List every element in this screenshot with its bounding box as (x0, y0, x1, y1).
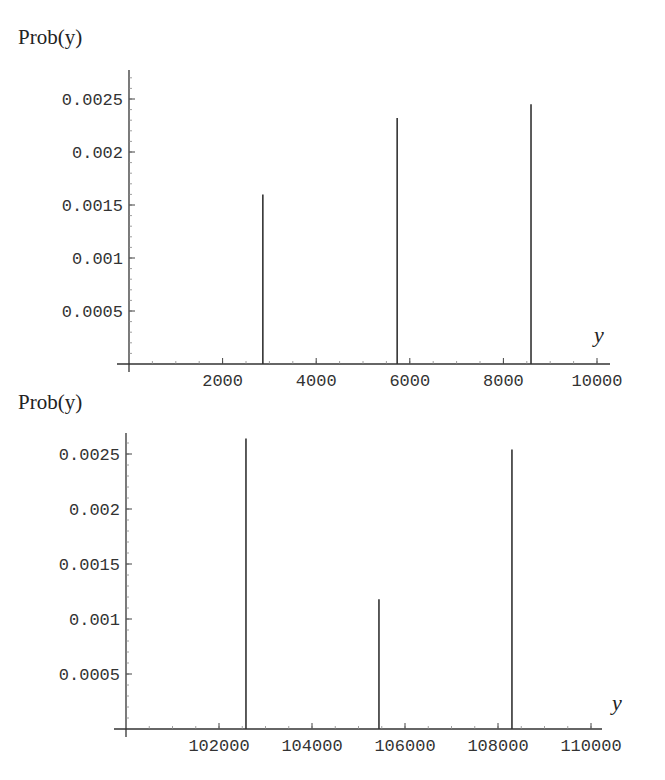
y-tick-label: 0.002 (69, 501, 120, 520)
x-tick-label: 8000 (483, 372, 524, 391)
x-tick-label: 10000 (571, 372, 622, 391)
y-tick-label: 0.0005 (59, 666, 120, 685)
y-tick-label: 0.001 (69, 611, 120, 630)
x-tick-label: 106000 (374, 737, 435, 756)
x-tick-label: 104000 (281, 737, 342, 756)
x-tick-label: 108000 (467, 737, 528, 756)
y-axis-title: Prob(y) (18, 25, 82, 49)
x-tick-label: 2000 (202, 372, 243, 391)
y-tick-label: 0.0015 (62, 197, 123, 216)
y-tick-label: 0.0015 (59, 556, 120, 575)
x-tick-label: 110000 (560, 737, 621, 756)
probability-spike-charts: 2000400060008000100000.00050.0010.00150.… (0, 0, 665, 780)
y-tick-label: 0.0025 (62, 91, 123, 110)
bottom-chart: 1020001040001060001080001100000.00050.00… (18, 390, 622, 756)
y-tick-label: 0.0005 (62, 303, 123, 322)
y-tick-label: 0.001 (72, 250, 123, 269)
x-tick-label: 6000 (389, 372, 430, 391)
figure: 2000400060008000100000.00050.0010.00150.… (0, 0, 665, 780)
y-axis-title: Prob(y) (18, 390, 82, 414)
y-tick-label: 0.002 (72, 144, 123, 163)
top-chart: 2000400060008000100000.00050.0010.00150.… (18, 25, 623, 391)
x-tick-label: 4000 (296, 372, 337, 391)
x-axis-title: y (592, 322, 604, 347)
x-axis-title: y (610, 690, 622, 715)
y-tick-label: 0.0025 (59, 446, 120, 465)
x-tick-label: 102000 (188, 737, 249, 756)
